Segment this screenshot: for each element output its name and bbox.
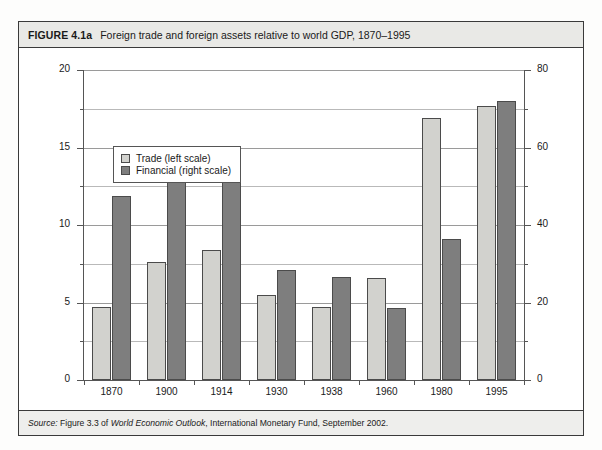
x-axis-tick (469, 380, 470, 385)
y-axis-label-left: 20 (36, 63, 70, 74)
bar-financial-1980 (442, 239, 461, 380)
bar-trade-1938 (312, 307, 331, 380)
bar-financial-1870 (112, 196, 131, 380)
bar-financial-1938 (332, 277, 351, 380)
source-prefix: Source: (28, 418, 58, 428)
y-axis-tick-right (524, 303, 531, 304)
y-axis-minor-tick-right (524, 186, 528, 187)
figure-title: Foreign trade and foreign assets relativ… (100, 29, 410, 41)
figure-container: FIGURE 4.1a Foreign trade and foreign as… (18, 21, 584, 436)
gridline-minor (84, 186, 524, 187)
bar-trade-1995 (477, 106, 496, 380)
legend-item-trade: Trade (left scale) (121, 153, 231, 164)
legend-swatch-financial-icon (121, 166, 130, 175)
chart-legend: Trade (left scale) Financial (right scal… (113, 146, 241, 183)
y-axis-minor-tick-right (524, 341, 528, 342)
bar-financial-1960 (387, 308, 406, 380)
x-axis-label-1900: 1900 (142, 386, 192, 397)
x-axis-label-1914: 1914 (197, 386, 247, 397)
x-axis-tick (194, 380, 195, 385)
legend-label-financial: Financial (right scale) (136, 165, 231, 176)
y-axis-minor-tick-left (80, 186, 84, 187)
plot-area: 0510152002040608018701900191419301938196… (83, 70, 525, 381)
bar-trade-1900 (147, 262, 166, 380)
y-axis-minor-tick-left (80, 109, 84, 110)
legend-label-trade: Trade (left scale) (136, 153, 211, 164)
y-axis-minor-tick-left (80, 341, 84, 342)
y-axis-label-right: 40 (537, 218, 571, 229)
x-axis-label-1938: 1938 (307, 386, 357, 397)
y-axis-tick-left (77, 380, 84, 381)
y-axis-minor-tick-left (80, 264, 84, 265)
y-axis-label-right: 80 (537, 63, 571, 74)
y-axis-tick-left (77, 70, 84, 71)
x-axis-tick (139, 380, 140, 385)
x-axis-label-1870: 1870 (87, 386, 137, 397)
figure-number: FIGURE 4.1a (28, 29, 92, 41)
bar-trade-1870 (92, 307, 111, 380)
source-part1: Figure 3.3 of (58, 418, 111, 428)
x-axis-label-1995: 1995 (472, 386, 522, 397)
y-axis-label-left: 5 (36, 296, 70, 307)
source-part2: , International Monetary Fund, September… (205, 418, 388, 428)
figure-source-note: Source: Figure 3.3 of World Economic Out… (28, 418, 388, 428)
x-axis-tick (524, 380, 525, 385)
y-axis-tick-right (524, 225, 531, 226)
x-axis-tick (414, 380, 415, 385)
y-axis-label-right: 20 (537, 296, 571, 307)
y-axis-minor-tick-right (524, 264, 528, 265)
y-axis-label-left: 0 (36, 373, 70, 384)
plot-frame: 0510152002040608018701900191419301938196… (31, 58, 571, 408)
bar-trade-1914 (202, 250, 221, 380)
bar-trade-1980 (422, 118, 441, 380)
gridline-major (84, 70, 524, 71)
bar-trade-1960 (367, 278, 386, 380)
y-axis-tick-right (524, 148, 531, 149)
bar-financial-1900 (167, 163, 186, 380)
x-axis-label-1930: 1930 (252, 386, 302, 397)
y-axis-tick-left (77, 225, 84, 226)
x-axis-tick (84, 380, 85, 385)
y-axis-minor-tick-right (524, 109, 528, 110)
legend-item-financial: Financial (right scale) (121, 165, 231, 176)
figure-caption-band: FIGURE 4.1a Foreign trade and foreign as… (19, 22, 583, 48)
y-axis-tick-right (524, 70, 531, 71)
y-axis-label-right: 60 (537, 141, 571, 152)
gridline-minor (84, 109, 524, 110)
y-axis-tick-right (524, 380, 531, 381)
bar-financial-1930 (277, 270, 296, 380)
x-axis-label-1980: 1980 (417, 386, 467, 397)
bar-financial-1995 (497, 101, 516, 380)
bar-financial-1914 (222, 182, 241, 380)
y-axis-tick-left (77, 303, 84, 304)
legend-swatch-trade-icon (121, 154, 130, 163)
x-axis-tick (249, 380, 250, 385)
y-axis-tick-left (77, 148, 84, 149)
figure-source-band: Source: Figure 3.3 of World Economic Out… (19, 410, 583, 435)
figure-page: FIGURE 4.1a Foreign trade and foreign as… (0, 0, 602, 450)
y-axis-label-left: 15 (36, 141, 70, 152)
source-publication: World Economic Outlook (111, 418, 206, 428)
x-axis-tick (359, 380, 360, 385)
gridline-major (84, 225, 524, 226)
x-axis-tick (304, 380, 305, 385)
x-axis-label-1960: 1960 (362, 386, 412, 397)
y-axis-label-right: 0 (537, 373, 571, 384)
y-axis-label-left: 10 (36, 218, 70, 229)
bar-trade-1930 (257, 295, 276, 380)
